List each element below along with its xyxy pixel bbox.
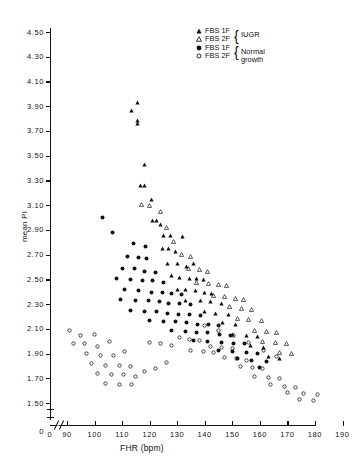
data-point [195, 313, 200, 318]
data-point [132, 257, 137, 262]
data-point [164, 216, 169, 221]
data-point [177, 292, 182, 297]
data-point [197, 329, 202, 334]
data-point [179, 283, 184, 288]
data-point [206, 272, 211, 277]
data-point [235, 307, 240, 312]
legend-brace: { [234, 28, 239, 44]
data-point [274, 345, 279, 350]
data-point [198, 304, 203, 309]
data-point [129, 99, 134, 104]
data-point [135, 112, 140, 117]
data-point [194, 321, 199, 326]
data-point [142, 360, 147, 365]
data-point [154, 300, 159, 305]
data-point [284, 332, 289, 337]
data-point [111, 344, 116, 349]
data-point [103, 372, 108, 377]
data-point [122, 340, 127, 345]
data-point [246, 331, 251, 336]
data-point [100, 206, 105, 211]
data-point [282, 375, 287, 380]
data-point [252, 365, 257, 370]
data-point [140, 269, 145, 274]
data-point [249, 349, 254, 354]
data-point [297, 388, 302, 393]
data-point [224, 274, 229, 279]
x-tick-label: 190 [331, 430, 354, 439]
data-point [222, 285, 227, 290]
data-point [188, 245, 193, 250]
data-point [177, 266, 182, 271]
data-point [293, 376, 298, 381]
data-point [121, 363, 126, 368]
data-point [233, 287, 238, 292]
data-point [150, 269, 155, 274]
data-point [246, 308, 251, 313]
data-point [227, 295, 232, 300]
data-point [177, 326, 182, 331]
data-point [143, 235, 148, 240]
data-point [139, 193, 144, 198]
data-point [230, 337, 235, 342]
data-point [147, 194, 152, 199]
data-point [250, 356, 255, 361]
data-point [277, 367, 282, 372]
data-point [187, 303, 192, 308]
data-point [84, 342, 89, 347]
data-point [211, 284, 216, 289]
data-point [179, 243, 184, 248]
data-point [153, 261, 158, 266]
data-point [169, 334, 174, 339]
data-point [216, 319, 221, 324]
data-point [201, 340, 206, 345]
data-point [164, 351, 169, 356]
data-point [136, 279, 141, 284]
data-point [165, 302, 170, 307]
data-point [244, 324, 249, 329]
data-point [188, 339, 193, 344]
data-point [266, 366, 271, 371]
data-point [109, 363, 114, 368]
data-point [197, 258, 202, 263]
data-point [133, 289, 138, 294]
legend-group-label: IUGR [241, 31, 259, 39]
data-point [136, 246, 141, 251]
data-point [160, 237, 165, 242]
data-point [186, 257, 191, 262]
x-tick-mark [343, 421, 344, 426]
data-point [157, 290, 162, 295]
data-point [114, 267, 119, 272]
data-point [264, 320, 269, 325]
data-point [260, 330, 265, 335]
data-point [238, 355, 243, 360]
legend-marker-filled-circle-icon [196, 45, 202, 51]
data-point [171, 230, 176, 235]
data-point [98, 344, 103, 349]
data-point [161, 271, 166, 276]
data-point [149, 188, 154, 193]
data-point [128, 299, 133, 304]
data-point [187, 328, 192, 333]
data-point [117, 354, 122, 359]
data-point [144, 247, 149, 252]
data-point [244, 349, 249, 354]
data-point [180, 225, 185, 230]
data-point [222, 346, 227, 351]
data-point [216, 273, 221, 278]
data-point [219, 336, 224, 341]
data-point [311, 389, 316, 394]
data-point [147, 309, 152, 314]
data-point [259, 309, 264, 314]
data-point [301, 382, 306, 387]
data-point [78, 324, 83, 329]
data-point [118, 288, 123, 293]
legend-marker-filled-triangle-icon [196, 28, 202, 34]
data-point [103, 354, 108, 359]
data-point [315, 383, 320, 388]
data-point [169, 319, 174, 324]
legend-group-label: Normal growth [241, 48, 265, 64]
data-point [252, 319, 257, 324]
